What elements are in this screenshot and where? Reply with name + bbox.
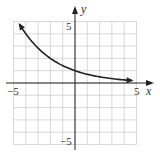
x-max-label: 5 [134, 85, 140, 97]
curve [20, 24, 132, 80]
y-axis-arrow-icon [72, 6, 78, 14]
y-max-label: 5 [66, 20, 72, 32]
exponential-graph: −5 5 x 5 −5 y [0, 0, 160, 153]
curve-right-arrow-icon [126, 77, 133, 83]
x-axis-label: x [145, 84, 152, 98]
y-axis-label: y [80, 2, 87, 16]
y-axis [72, 6, 78, 150]
x-min-label: −5 [7, 85, 19, 97]
y-min-label: −5 [60, 135, 72, 147]
